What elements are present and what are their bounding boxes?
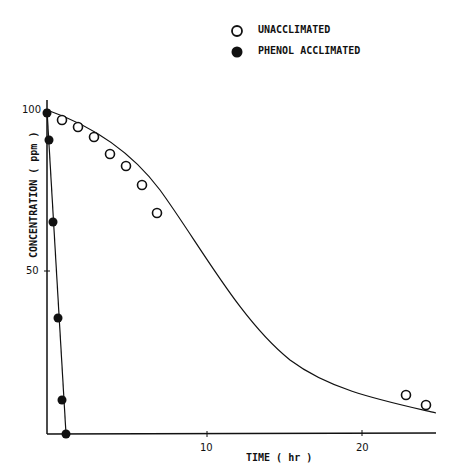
y-axis-label: CONCENTRATION ( ppm ) bbox=[28, 132, 39, 258]
legend-label-phenol-acclimated: PHENOL ACCLIMATED bbox=[258, 45, 360, 56]
legend-filled-circle-icon bbox=[232, 47, 243, 58]
legend-label-unacclimated: UNACCLIMATED bbox=[258, 24, 330, 35]
acclimated-fit-line bbox=[47, 110, 66, 434]
x-axis-label: TIME ( hr ) bbox=[246, 452, 312, 463]
y-tick-50: 50 bbox=[26, 265, 39, 276]
x-tick-20: 20 bbox=[356, 442, 369, 453]
unacclimated-points bbox=[58, 116, 431, 410]
y-tick-100: 100 bbox=[22, 104, 41, 115]
chart-plot bbox=[0, 0, 466, 471]
x-axis bbox=[47, 433, 436, 434]
x-tick-10: 10 bbox=[200, 442, 213, 453]
legend-open-circle-icon bbox=[232, 26, 242, 36]
